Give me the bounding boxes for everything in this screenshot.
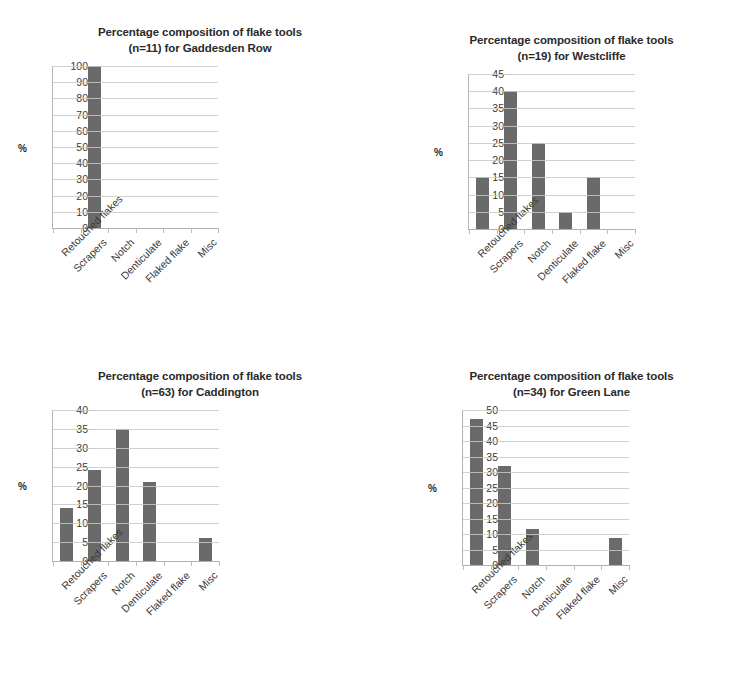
y-axis-title: % (428, 483, 437, 494)
plot-area-caddington: Retouched flakesScrapersNotchDenticulate… (52, 410, 219, 562)
gridline (53, 486, 219, 487)
chart-title-green-lane: Percentage composition of flake tools (n… (422, 368, 722, 400)
bar-slot (607, 74, 635, 229)
chart-title-line1: Percentage composition of flake tools (98, 370, 302, 382)
gridline (53, 147, 218, 148)
gridline (53, 163, 218, 164)
gridline (53, 115, 218, 116)
chart-panel-green-lane: Percentage composition of flake tools (n… (400, 360, 743, 692)
x-axis-labels: Retouched flakesScrapersNotchDenticulate… (53, 561, 219, 641)
gridline (463, 441, 629, 442)
x-tick-label: Retouched flakes (59, 569, 82, 592)
gridline (469, 74, 635, 75)
gridline (53, 179, 218, 180)
gridline (469, 143, 635, 144)
gridline (53, 98, 218, 99)
gridline (463, 426, 629, 427)
gridline (53, 196, 218, 197)
gridline (469, 91, 635, 92)
x-tick-label: Retouched flakes (475, 237, 498, 260)
x-tick-mark (219, 561, 220, 566)
y-axis-title: % (18, 481, 27, 492)
gridline (53, 66, 218, 67)
bar-retouched-flakes (476, 177, 489, 229)
gridline (53, 410, 219, 411)
gridline (53, 448, 219, 449)
gridline (53, 82, 218, 83)
gridline (53, 504, 219, 505)
gridline (463, 550, 629, 551)
gridline (469, 126, 635, 127)
gridline (463, 472, 629, 473)
chart-title-line1: Percentage composition of flake tools (470, 34, 674, 46)
chart-title-line2: (n=11) for Gaddesden Row (50, 40, 350, 56)
gridline (463, 488, 629, 489)
gridline (53, 523, 219, 524)
chart-panel-caddington: Percentage composition of flake tools (n… (0, 360, 400, 692)
gridline (469, 229, 635, 230)
bar-flaked-flake (587, 177, 600, 229)
y-axis-title: % (434, 147, 443, 158)
chart-title-caddington: Percentage composition of flake tools (n… (50, 368, 350, 400)
chart-title-line1: Percentage composition of flake tools (98, 26, 302, 38)
gridline (469, 212, 635, 213)
gridline (463, 519, 629, 520)
plot-wrap-caddington: % 0510152025303540 Retouched flakesScrap… (52, 410, 400, 562)
chart-panel-westcliffe: Percentage composition of flake tools (n… (400, 0, 743, 360)
bar-denticulate (559, 212, 572, 229)
gridline (53, 542, 219, 543)
x-tick-mark (635, 229, 636, 234)
gridline (53, 228, 218, 229)
x-tick-mark (218, 228, 219, 233)
plot-area-westcliffe: Retouched flakesScrapersNotchDenticulate… (468, 74, 635, 230)
bars-layer (469, 74, 635, 229)
x-axis-labels: Retouched flakesScrapersNotchDenticulate… (463, 565, 629, 645)
chart-title-westcliffe: Percentage composition of flake tools (n… (422, 32, 722, 64)
bar-denticulate (143, 482, 156, 561)
gridline (53, 212, 218, 213)
gridline (463, 503, 629, 504)
chart-title-gaddesden-row: Percentage composition of flake tools (n… (50, 24, 350, 56)
bar-slot (580, 74, 608, 229)
gridline (53, 467, 219, 468)
chart-panel-gaddesden-row: Percentage composition of flake tools (n… (0, 0, 400, 360)
gridline (469, 108, 635, 109)
bar-retouched-flakes (60, 508, 73, 561)
plot-wrap-green-lane: % 05101520253035404550 Retouched flakesS… (462, 410, 743, 566)
gridline (469, 160, 635, 161)
bar-misc (609, 538, 622, 565)
bar-slot (469, 74, 497, 229)
gridline (53, 131, 218, 132)
x-axis-labels: Retouched flakesScrapersNotchDenticulate… (469, 229, 635, 309)
gridline (53, 429, 219, 430)
bar-notch (532, 143, 545, 229)
gridline (463, 410, 629, 411)
x-tick-label: Retouched flakes (469, 573, 492, 596)
gridline (469, 195, 635, 196)
y-axis-title: % (18, 142, 27, 153)
chart-title-line2: (n=63) for Caddington (50, 384, 350, 400)
plot-area-green-lane: Retouched flakesScrapersNotchDenticulate… (462, 410, 629, 566)
plot-area-gaddesden-row: Retouched flakesScrapersNotchDenticulate… (52, 66, 218, 229)
x-tick-mark (629, 565, 630, 570)
gridline (463, 534, 629, 535)
gridline (469, 177, 635, 178)
chart-title-line2: (n=34) for Green Lane (422, 384, 722, 400)
gridline (463, 457, 629, 458)
chart-title-line1: Percentage composition of flake tools (470, 370, 674, 382)
x-axis-labels: Retouched flakesScrapersNotchDenticulate… (53, 228, 218, 308)
figure-grid: Percentage composition of flake tools (n… (0, 0, 743, 692)
gridline (53, 561, 219, 562)
plot-wrap-westcliffe: % 051015202530354045 Retouched flakesScr… (468, 74, 743, 230)
x-tick-label: Retouched flakes (59, 236, 81, 258)
gridline (463, 565, 629, 566)
chart-title-line2: (n=19) for Westcliffe (422, 48, 722, 64)
bar-slot (552, 74, 580, 229)
plot-wrap-gaddesden-row: % 0102030405060708090100 Retouched flake… (52, 66, 400, 229)
